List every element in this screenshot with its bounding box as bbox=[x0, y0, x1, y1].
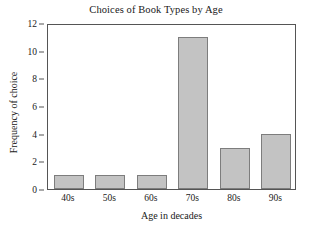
y-tick-mark bbox=[39, 79, 44, 80]
bar-rect bbox=[54, 175, 84, 189]
x-axis-title: Age in decades bbox=[47, 210, 296, 222]
y-tick-label: 2 bbox=[32, 157, 37, 167]
bar-rect bbox=[261, 134, 291, 189]
y-tick-label: 12 bbox=[28, 19, 38, 29]
y-tick-mark bbox=[39, 190, 44, 191]
x-axis: 40s50s60s70s80s90s bbox=[47, 192, 296, 206]
bar-rect bbox=[95, 175, 125, 189]
y-tick-label: 0 bbox=[32, 185, 37, 195]
y-tick-label: 8 bbox=[32, 74, 37, 84]
y-tick-label: 6 bbox=[32, 102, 37, 112]
y-tick-mark bbox=[39, 24, 44, 25]
plot-area bbox=[47, 24, 296, 190]
y-tick-mark bbox=[39, 51, 44, 52]
x-tick-label-90s: 90s bbox=[255, 192, 295, 204]
y-tick-mark bbox=[39, 134, 44, 135]
y-axis-title: Frequency of choice bbox=[8, 38, 19, 188]
bar-rect bbox=[137, 175, 167, 189]
x-tick-label-80s: 80s bbox=[214, 192, 254, 204]
y-tick-label: 4 bbox=[32, 130, 37, 140]
bar-rect bbox=[220, 148, 250, 190]
x-tick-label-60s: 60s bbox=[131, 192, 171, 204]
x-tick-label-40s: 40s bbox=[48, 192, 88, 204]
y-tick-label: 10 bbox=[28, 47, 38, 57]
x-tick-label-50s: 50s bbox=[89, 192, 129, 204]
chart-title: Choices of Book Types by Age bbox=[0, 3, 312, 16]
y-tick-mark bbox=[39, 162, 44, 163]
bar-chart-figure: Choices of Book Types by Age 024681012 F… bbox=[0, 0, 312, 240]
bars-layer bbox=[48, 25, 295, 189]
x-tick-label-70s: 70s bbox=[172, 192, 212, 204]
y-tick-mark bbox=[39, 107, 44, 108]
bar-rect bbox=[178, 37, 208, 189]
